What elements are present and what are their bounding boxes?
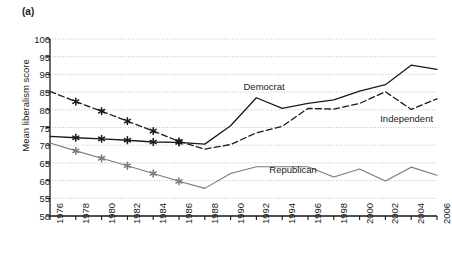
series-label-independent: Independent bbox=[380, 113, 433, 124]
x-tick-label: 2002 bbox=[389, 203, 400, 224]
x-tick-label: 1976 bbox=[54, 203, 65, 224]
series-label-republican: Republican bbox=[269, 164, 317, 175]
x-tick-label: 1982 bbox=[131, 203, 142, 224]
x-tick-label: 1998 bbox=[338, 203, 349, 224]
x-tick-label: 1990 bbox=[235, 203, 246, 224]
x-tick-label: 1988 bbox=[209, 203, 220, 224]
x-tick-label: 1978 bbox=[80, 203, 91, 224]
x-tick-label: 1984 bbox=[157, 203, 168, 224]
x-tick-label: 1980 bbox=[106, 203, 117, 224]
x-tick-label: 1994 bbox=[286, 203, 297, 224]
x-tick-label: 2004 bbox=[415, 203, 426, 224]
series-label-democrat: Democrat bbox=[244, 81, 285, 92]
x-tick-label: 2006 bbox=[441, 203, 452, 224]
x-tick-label: 1986 bbox=[183, 203, 194, 224]
x-tick-label: 2000 bbox=[364, 203, 375, 224]
x-tick-label: 1996 bbox=[312, 203, 323, 224]
x-tick-label: 1992 bbox=[260, 203, 271, 224]
